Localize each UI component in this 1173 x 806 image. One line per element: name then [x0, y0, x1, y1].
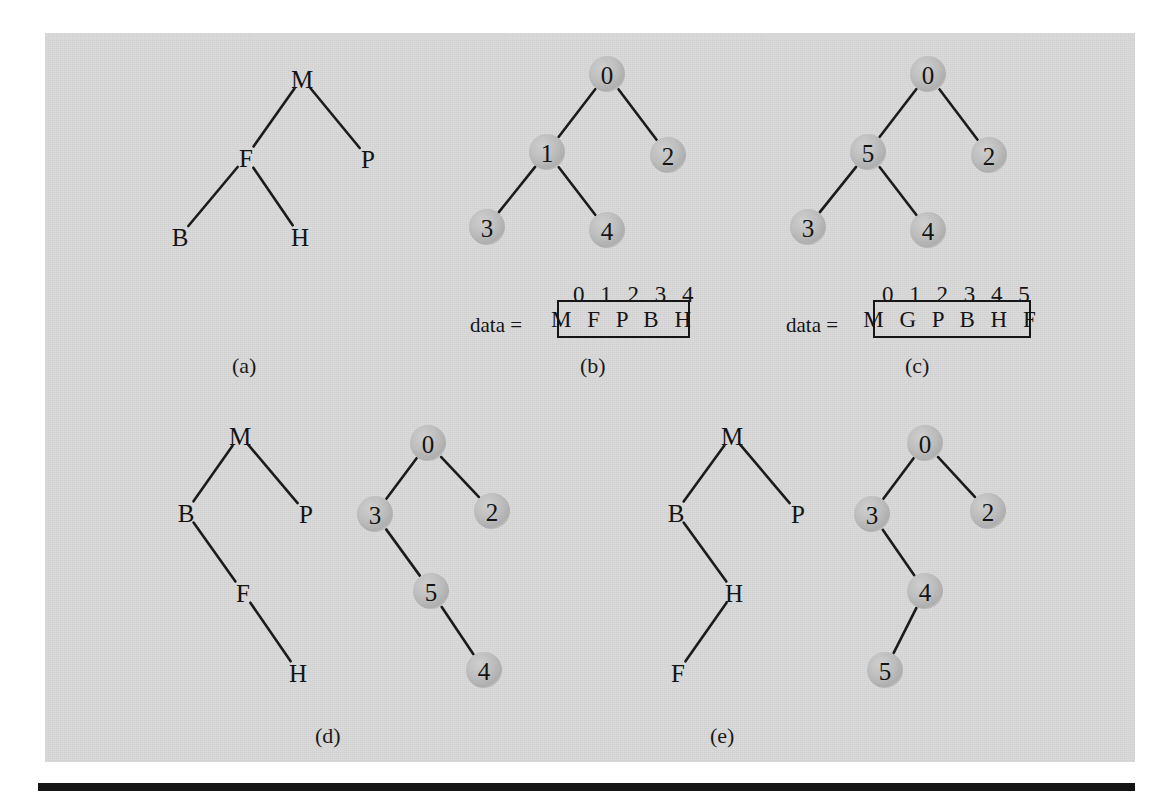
tree-node-letter-label: P	[791, 501, 805, 528]
tree-edge	[559, 89, 596, 137]
tree-edge	[939, 89, 977, 140]
tree-node-letter-label: H	[725, 580, 743, 607]
tree-edge	[499, 167, 535, 212]
tree-edge	[193, 446, 232, 502]
tree-diagram-canvas: MFPBH0123405234MBPFH03254MBPHF03245	[0, 0, 1173, 806]
data-array-values: M F P B H	[551, 308, 696, 331]
tree-node-index-label: 3	[866, 502, 879, 529]
tree-edge	[386, 529, 420, 575]
panel-caption: (e)	[710, 725, 734, 747]
tree-node-letter-label: B	[668, 500, 685, 527]
tree-node-letter-label: H	[291, 224, 309, 251]
tree-edge	[820, 167, 856, 212]
tree-node-index-label: 4	[922, 218, 935, 245]
panel-caption: (b)	[580, 355, 606, 377]
tree-edge	[880, 89, 917, 137]
figure-root: MFPBH0123405234MBPFH03254MBPHF03245 0 1 …	[0, 0, 1173, 806]
tree-edge	[894, 608, 917, 653]
tree-edge	[938, 457, 975, 497]
tree-edge	[310, 88, 359, 148]
tree-node-letter-label: M	[291, 66, 313, 93]
tree-node-index-label: 5	[862, 140, 875, 167]
tree-edge	[618, 89, 656, 140]
tree-edge	[883, 530, 914, 576]
tree-node-letter-label: F	[671, 660, 685, 687]
tree-node-index-label: 2	[662, 143, 675, 170]
tree-node-index-label: 3	[369, 502, 382, 529]
tree-node-letter-label: B	[172, 224, 189, 251]
tree-node-index-label: 3	[481, 215, 494, 242]
data-array-name-label: data =	[470, 315, 522, 336]
tree-node-index-label: 2	[486, 499, 499, 526]
tree-edge	[253, 168, 292, 226]
tree-edge	[684, 446, 725, 502]
tree-edge	[442, 607, 474, 654]
bottom-rule-divider	[38, 783, 1135, 791]
tree-node-letter-label: M	[229, 423, 251, 450]
tree-edge	[883, 458, 913, 499]
data-array-values: M G P B H F	[863, 308, 1041, 331]
tree-edge	[684, 523, 727, 582]
tree-edge	[740, 445, 789, 503]
tree-node-letter-label: P	[361, 146, 375, 173]
tree-node-index-label: 5	[425, 579, 438, 606]
tree-edge	[248, 445, 297, 503]
tree-node-letter-label: P	[299, 501, 313, 528]
tree-edge	[880, 167, 917, 215]
tree-edge	[386, 458, 416, 499]
tree-edge	[188, 167, 237, 226]
tree-node-index-label: 4	[919, 579, 932, 606]
tree-node-letter-label: F	[236, 580, 250, 607]
tree-node-index-label: 4	[478, 658, 491, 685]
data-array-name-label: data =	[786, 315, 838, 336]
panel-caption: (d)	[315, 725, 341, 747]
tree-edge	[559, 167, 596, 215]
tree-node-index-label: 0	[601, 62, 614, 89]
panel-caption: (c)	[905, 355, 929, 377]
panel-caption: (a)	[232, 355, 256, 377]
tree-node-index-label: 3	[802, 215, 815, 242]
tree-edge	[250, 603, 290, 662]
tree-edge	[194, 523, 236, 582]
tree-edge	[685, 603, 726, 662]
tree-edge	[254, 89, 295, 147]
tree-node-letter-label: F	[239, 145, 253, 172]
data-array-box: M F P B H	[557, 300, 690, 338]
data-array-box: M G P B H F	[873, 300, 1031, 338]
tree-node-index-label: 4	[601, 218, 614, 245]
tree-node-letter-label: H	[289, 660, 307, 687]
tree-node-index-label: 0	[919, 431, 932, 458]
tree-node-letter-label: B	[178, 500, 195, 527]
tree-node-index-label: 1	[541, 140, 554, 167]
tree-node-letter-label: M	[721, 423, 743, 450]
tree-node-index-label: 0	[422, 431, 435, 458]
tree-edge	[441, 457, 479, 497]
tree-node-index-label: 5	[879, 658, 892, 685]
tree-node-index-label: 2	[983, 143, 996, 170]
tree-node-index-label: 2	[982, 499, 995, 526]
tree-node-index-label: 0	[922, 62, 935, 89]
